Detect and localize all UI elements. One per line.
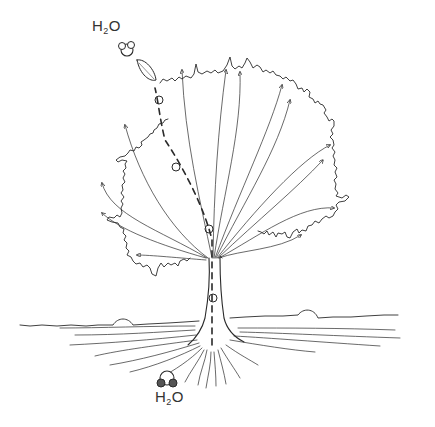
- h2o-label-bottom: H2O: [155, 388, 184, 407]
- ground-line: [20, 310, 398, 326]
- crown-outline: [107, 57, 349, 276]
- water-molecule-bottom: [157, 371, 177, 387]
- h2o-label-top: H2O: [92, 17, 121, 36]
- water-molecule-path: [155, 88, 217, 345]
- transport-arrows: [102, 70, 334, 260]
- leaf: [137, 60, 156, 81]
- tree-drawing: [0, 0, 435, 427]
- water-molecule-top: [119, 42, 135, 57]
- tree-diagram: H2O H2O: [0, 0, 435, 427]
- root-system: [60, 326, 400, 388]
- trunk: [188, 258, 244, 345]
